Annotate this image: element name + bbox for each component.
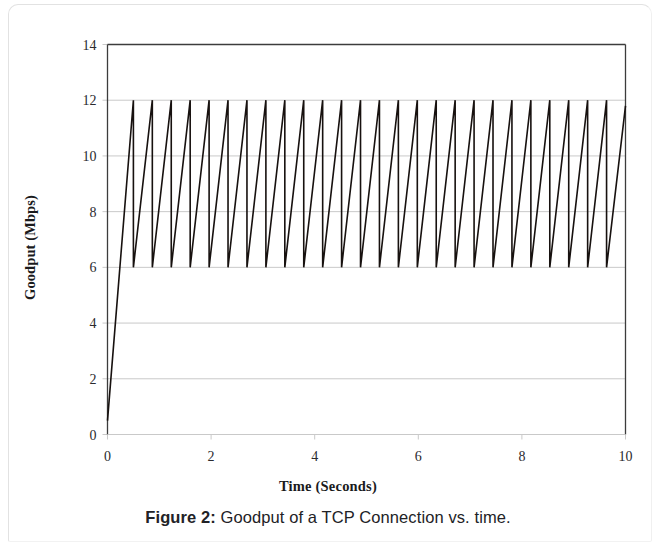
y-tick-label: 12 (83, 93, 97, 108)
x-tick-label: 6 (415, 449, 422, 464)
x-tick-label: 4 (311, 449, 318, 464)
y-tick-label: 8 (90, 205, 97, 220)
x-tick-label: 0 (104, 449, 111, 464)
x-axis-ticks: 0246810 (104, 435, 633, 464)
y-tick-label: 0 (90, 428, 97, 443)
figure-page: 02468101214 0246810 Goodput (Mbps) Time … (0, 0, 656, 547)
figure-caption: Figure 2: Goodput of a TCP Connection vs… (0, 508, 656, 527)
goodput-series-line (108, 100, 626, 420)
figure-container: 02468101214 0246810 Goodput (Mbps) Time … (0, 0, 656, 547)
y-tick-label: 10 (83, 149, 97, 164)
figure-caption-label: Figure 2: (145, 508, 216, 526)
y-tick-label: 2 (90, 372, 97, 387)
y-tick-label: 6 (90, 260, 97, 275)
y-tick-label: 14 (83, 38, 97, 53)
plot-frame (108, 45, 626, 435)
goodput-polyline (108, 100, 626, 420)
x-tick-label: 10 (619, 449, 633, 464)
x-tick-label: 2 (208, 449, 215, 464)
x-tick-label: 8 (518, 449, 525, 464)
figure-caption-text: Goodput of a TCP Connection vs. time. (216, 508, 511, 526)
x-axis-label: Time (Seconds) (0, 478, 656, 495)
y-tick-label: 4 (90, 316, 97, 331)
y-axis-label: Goodput (Mbps) (22, 195, 39, 300)
y-axis-ticks: 02468101214 (83, 38, 108, 443)
chart-plot: 02468101214 0246810 (0, 0, 656, 547)
